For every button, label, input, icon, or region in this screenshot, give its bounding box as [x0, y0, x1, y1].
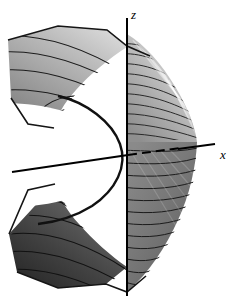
x-axis-label: x [220, 148, 226, 161]
surface-plot-svg [0, 0, 245, 302]
hyperboloid-figure: z x [0, 0, 245, 302]
z-axis-label: z [131, 8, 136, 21]
